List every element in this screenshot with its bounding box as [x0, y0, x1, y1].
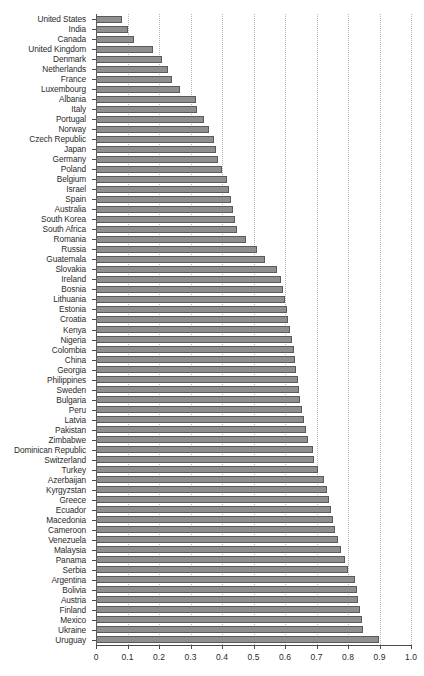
- y-axis-label: Lithuania: [53, 295, 86, 304]
- bar: [96, 446, 313, 453]
- y-axis-tick: [92, 309, 96, 310]
- x-axis-tick: [348, 645, 349, 649]
- bar: [96, 66, 168, 73]
- gridline: [411, 14, 412, 645]
- y-axis-label: Netherlands: [42, 65, 86, 74]
- bar: [96, 176, 227, 183]
- y-axis-label: United Kingdom: [28, 45, 86, 54]
- bar: [96, 616, 362, 623]
- y-axis-tick: [92, 169, 96, 170]
- y-axis-label: Russia: [61, 245, 86, 254]
- y-axis-tick: [92, 69, 96, 70]
- bar: [96, 626, 363, 633]
- y-axis-label: Finland: [59, 605, 86, 614]
- bar: [96, 36, 134, 43]
- y-axis-label: Poland: [61, 165, 86, 174]
- bar: [96, 46, 153, 53]
- y-axis-tick: [92, 19, 96, 20]
- y-axis-tick: [92, 370, 96, 371]
- bar: [96, 116, 204, 123]
- y-axis-label: Cameroon: [48, 525, 86, 534]
- y-axis-tick: [92, 440, 96, 441]
- x-axis-tick: [222, 645, 223, 649]
- y-axis-tick: [92, 139, 96, 140]
- y-axis-tick: [92, 640, 96, 641]
- y-axis-label: Uruguay: [55, 635, 86, 644]
- y-axis-label: Venezuela: [48, 535, 86, 544]
- bar: [96, 206, 233, 213]
- y-axis-tick: [92, 89, 96, 90]
- y-axis-label: Germany: [53, 155, 86, 164]
- bar: [96, 106, 197, 113]
- y-axis-label: Croatia: [60, 315, 86, 324]
- y-axis-label: Guatemala: [46, 255, 86, 264]
- plot-area: [96, 14, 411, 645]
- bar: [96, 456, 314, 463]
- y-axis-label: Nigeria: [60, 335, 86, 344]
- y-axis-label: Albania: [59, 95, 86, 104]
- y-axis-tick: [92, 99, 96, 100]
- y-axis-label: Macedonia: [46, 515, 86, 524]
- y-axis-label: Bolivia: [62, 585, 86, 594]
- bar: [96, 406, 302, 413]
- y-axis-label: Switzerland: [44, 455, 86, 464]
- y-axis-tick: [92, 129, 96, 130]
- y-axis-label: Malaysia: [54, 545, 86, 554]
- bar: [96, 346, 294, 353]
- bar: [96, 16, 122, 23]
- bar: [96, 256, 265, 263]
- y-axis-label: South Africa: [42, 225, 86, 234]
- y-axis-tick: [92, 330, 96, 331]
- bar: [96, 546, 341, 553]
- y-axis-label: Argentina: [51, 575, 86, 584]
- bar: [96, 156, 218, 163]
- y-axis-label: Canada: [58, 35, 86, 44]
- bar: [96, 276, 281, 283]
- x-axis-tick: [380, 645, 381, 649]
- y-axis-tick: [92, 560, 96, 561]
- y-axis-label: Peru: [69, 405, 86, 414]
- y-axis-label: Luxembourg: [41, 85, 86, 94]
- gridline: [380, 14, 381, 645]
- y-axis-label: Denmark: [53, 55, 86, 64]
- bar: [96, 396, 300, 403]
- bar: [96, 566, 348, 573]
- y-axis-tick: [92, 289, 96, 290]
- y-axis-tick: [92, 179, 96, 180]
- x-axis-tick: [96, 645, 97, 649]
- y-axis-tick: [92, 590, 96, 591]
- y-axis-label: Panama: [56, 555, 86, 564]
- y-axis-tick: [92, 319, 96, 320]
- x-axis-tick-label: 0.5: [248, 652, 260, 662]
- bar: [96, 166, 222, 173]
- y-axis-tick: [92, 470, 96, 471]
- bar: [96, 586, 357, 593]
- bar: [96, 326, 290, 333]
- y-axis-tick: [92, 299, 96, 300]
- y-axis-label: Ireland: [61, 275, 86, 284]
- x-axis-tick: [159, 645, 160, 649]
- y-axis-tick: [92, 39, 96, 40]
- bar: [96, 96, 196, 103]
- y-axis-tick: [92, 249, 96, 250]
- y-axis-label: Italy: [71, 105, 86, 114]
- y-axis-label: Israel: [66, 185, 86, 194]
- y-axis-tick: [92, 360, 96, 361]
- y-axis-tick: [92, 239, 96, 240]
- y-axis-label: Bosnia: [61, 285, 86, 294]
- y-axis-label: Mexico: [60, 615, 86, 624]
- y-axis-tick: [92, 219, 96, 220]
- x-axis-tick: [254, 645, 255, 649]
- y-axis-tick: [92, 199, 96, 200]
- y-axis-label: Turkey: [62, 465, 86, 474]
- y-axis-tick: [92, 410, 96, 411]
- x-axis-tick: [317, 645, 318, 649]
- gridline: [348, 14, 349, 645]
- y-axis-label: Sweden: [57, 385, 86, 394]
- y-axis-tick: [92, 79, 96, 80]
- y-axis-tick: [92, 400, 96, 401]
- y-axis-tick: [92, 209, 96, 210]
- y-axis-tick: [92, 159, 96, 160]
- bar: [96, 436, 308, 443]
- bar: [96, 506, 331, 513]
